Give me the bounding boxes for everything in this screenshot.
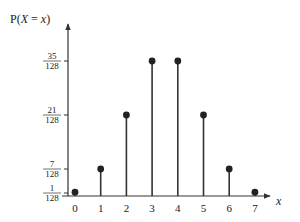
y-tick-numerator: 35 <box>48 51 58 61</box>
stem-point <box>200 112 207 119</box>
y-axis-label: P(X = x) <box>10 12 50 26</box>
stem-point <box>252 189 259 196</box>
y-tick-numerator: 1 <box>50 183 55 193</box>
stem-point <box>123 112 130 119</box>
stem-point <box>72 189 79 196</box>
y-tick-denominator: 128 <box>45 61 59 71</box>
stem-chart: 112871282112835128 01234567 P(X = x) x <box>0 0 300 222</box>
stem-point <box>226 166 233 173</box>
stem-point <box>97 166 104 173</box>
x-tick-label: 0 <box>72 202 78 214</box>
x-tick-label: 5 <box>201 202 207 214</box>
x-tick-label: 4 <box>175 202 181 214</box>
x-axis-label: x <box>275 194 282 208</box>
y-tick-numerator: 21 <box>48 105 57 115</box>
x-tick-label: 2 <box>124 202 130 214</box>
x-tick-label: 7 <box>252 202 258 214</box>
y-tick-denominator: 128 <box>45 193 59 203</box>
stem-point <box>149 58 156 65</box>
x-tick-label: 1 <box>98 202 104 214</box>
y-tick-denominator: 128 <box>45 115 59 125</box>
stem-point <box>174 58 181 65</box>
y-tick-denominator: 128 <box>45 169 59 179</box>
x-tick-label: 6 <box>226 202 232 214</box>
x-tick-label: 3 <box>149 202 155 214</box>
y-tick-numerator: 7 <box>50 159 55 169</box>
